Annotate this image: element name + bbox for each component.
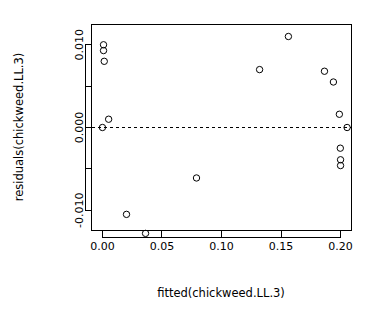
x-tick-label: 0.20 — [328, 240, 353, 253]
y-tick-label: -0.010 — [73, 192, 86, 227]
chart-background — [0, 0, 372, 324]
x-tick-label: 0.15 — [269, 240, 294, 253]
y-tick-label: 0.010 — [73, 29, 86, 61]
x-axis-title: fitted(chickweed.LL.3) — [157, 286, 285, 300]
x-tick-label: 0.05 — [150, 240, 175, 253]
scatter-chart-canvas: 0.0100.000-0.010 0.000.050.100.150.20 re… — [0, 0, 372, 324]
y-axis-title: residuals(chickweed.LL.3) — [12, 53, 26, 202]
y-tick-label: 0.000 — [73, 112, 86, 144]
x-tick-label: 0.10 — [209, 240, 234, 253]
x-tick-label: 0.00 — [90, 240, 115, 253]
residual-plot: 0.0100.000-0.010 0.000.050.100.150.20 re… — [0, 0, 372, 324]
